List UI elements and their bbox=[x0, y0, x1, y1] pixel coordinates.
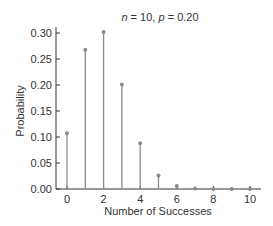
y-axis-label: Probability bbox=[14, 85, 26, 137]
y-tick-label: 0.05 bbox=[31, 157, 52, 169]
chart-title: n = 10, p = 0.20 bbox=[121, 11, 198, 23]
stem-marker bbox=[248, 187, 252, 191]
stem-marker bbox=[211, 187, 215, 191]
x-tick-label: 0 bbox=[64, 193, 70, 205]
x-tick-label: 2 bbox=[101, 193, 107, 205]
stem-marker bbox=[230, 187, 234, 191]
stem-marker bbox=[102, 30, 106, 34]
y-tick-label: 0.15 bbox=[31, 105, 52, 117]
stem-marker bbox=[65, 131, 69, 135]
x-tick-label: 4 bbox=[137, 193, 143, 205]
stem-marker bbox=[157, 173, 161, 177]
stem-marker bbox=[193, 186, 197, 190]
stems bbox=[65, 30, 252, 191]
x-tick-label: 8 bbox=[210, 193, 216, 205]
y-tick-label: 0.30 bbox=[31, 27, 52, 39]
x-axis-label: Number of Successes bbox=[104, 205, 212, 217]
y-tick-label: 0.20 bbox=[31, 79, 52, 91]
x-tick-label: 10 bbox=[244, 193, 256, 205]
stem-marker bbox=[83, 48, 87, 52]
stem-marker bbox=[120, 82, 124, 86]
y-tick-label: 0.25 bbox=[31, 53, 52, 65]
stem-marker bbox=[138, 141, 142, 145]
y-tick-label: 0.00 bbox=[31, 183, 52, 195]
axes: 0.000.050.100.150.200.250.300246810 bbox=[31, 27, 261, 205]
y-tick-label: 0.10 bbox=[31, 131, 52, 143]
stem-marker bbox=[175, 184, 179, 188]
x-tick-label: 6 bbox=[174, 193, 180, 205]
binomial-stem-chart: n = 10, p = 0.20 Probability Number of S… bbox=[0, 0, 273, 226]
